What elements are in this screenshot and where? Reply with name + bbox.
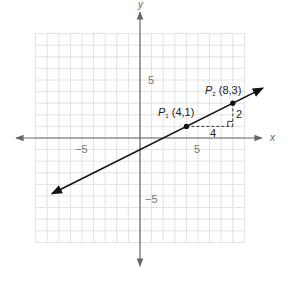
y-tick-5: 5 (148, 75, 154, 86)
point-p1-label: P1 (4,1) (158, 107, 194, 119)
right-angle-icon (228, 121, 233, 126)
point-p2-label: P2 (8,3) (205, 85, 241, 97)
rise-label: 2 (236, 109, 242, 120)
y-tick-neg5: −5 (145, 194, 158, 205)
x-tick-5: 5 (194, 144, 200, 155)
point-p1 (184, 124, 189, 129)
point-p2 (230, 101, 235, 106)
x-tick-neg5: −5 (75, 144, 88, 155)
coordinate-plane (0, 0, 288, 281)
y-axis-label: y (138, 0, 143, 10)
x-axis-label: x (270, 133, 275, 143)
run-label: 4 (210, 128, 216, 139)
